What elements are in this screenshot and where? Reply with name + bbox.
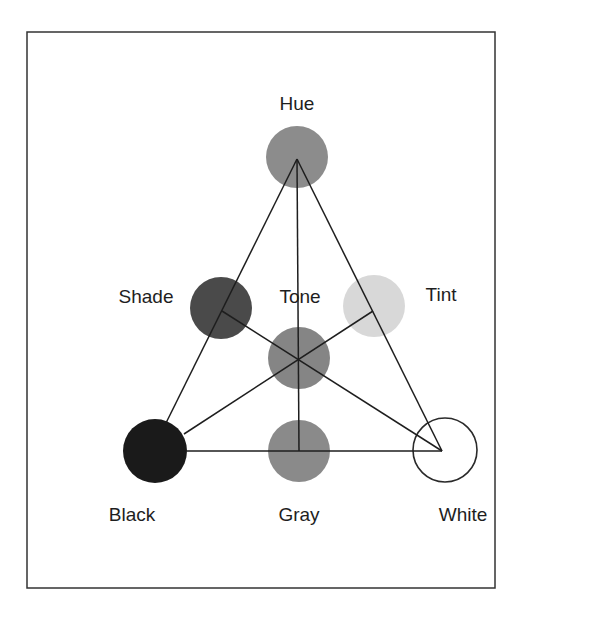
label-shade: Shade: [119, 287, 174, 306]
diagram-frame: [27, 32, 495, 588]
shade-swatch: [190, 277, 252, 339]
tint-swatch: [343, 275, 405, 337]
label-tone: Tone: [279, 287, 320, 306]
label-black: Black: [109, 505, 155, 524]
label-white: White: [439, 505, 488, 524]
edge-white-shade: [222, 311, 442, 451]
label-tint: Tint: [426, 285, 457, 304]
label-gray: Gray: [278, 505, 319, 524]
white-swatch: [413, 418, 477, 482]
edge-hue-black: [166, 159, 297, 423]
color-triangle-diagram: Hue Shade Tone Tint Black Gray White: [0, 0, 591, 620]
label-hue: Hue: [280, 94, 315, 113]
black-swatch: [123, 419, 187, 483]
